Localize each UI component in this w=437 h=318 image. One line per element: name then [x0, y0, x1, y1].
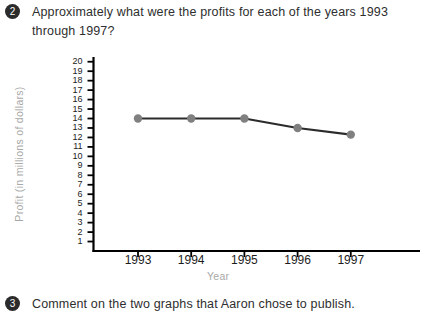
- y-axis-tick-label: 7: [67, 180, 83, 189]
- y-axis-tick-label: 15: [67, 105, 83, 114]
- y-axis-tick-label: 16: [67, 95, 83, 104]
- question-number-badge-3: 3: [5, 296, 20, 311]
- y-axis-tick-label: 2: [67, 228, 83, 237]
- question-item-2: 2 Approximately what were the profits fo…: [0, 3, 437, 41]
- data-point-marker: [187, 114, 195, 122]
- question-text-3: Comment on the two graphs that Aaron cho…: [32, 295, 355, 314]
- question-number-badge-2: 2: [5, 4, 20, 19]
- question-text-2: Approximately what were the profits for …: [32, 3, 432, 41]
- y-axis-tick-label: 6: [67, 190, 83, 199]
- y-axis-tick-label: 9: [67, 161, 83, 170]
- y-axis-tick-label: 3: [67, 218, 83, 227]
- data-point-marker: [347, 130, 355, 138]
- x-axis-tick-label: 1994: [168, 254, 214, 266]
- profit-line-chart: Profit (in millions of dollars) Year 123…: [0, 52, 437, 292]
- y-axis-tick-label: 17: [67, 86, 83, 95]
- y-axis-tick-label: 4: [67, 209, 83, 218]
- x-axis-tick-label: 1993: [115, 254, 161, 266]
- data-point-marker: [134, 114, 142, 122]
- y-axis-tick-label: 14: [67, 114, 83, 123]
- y-axis-tick-label: 20: [67, 57, 83, 66]
- x-axis-tick-label: 1995: [221, 254, 267, 266]
- x-axis-tick-label: 1996: [275, 254, 321, 266]
- y-axis-tick-label: 5: [67, 199, 83, 208]
- y-axis-tick-label: 19: [67, 67, 83, 76]
- y-axis-tick-label: 13: [67, 123, 83, 132]
- y-axis-tick-label: 1: [67, 237, 83, 246]
- y-axis-tick-label: 8: [67, 171, 83, 180]
- question-item-3: 3 Comment on the two graphs that Aaron c…: [0, 295, 437, 314]
- y-axis-tick-label: 12: [67, 133, 83, 142]
- y-axis-tick-label: 11: [67, 142, 83, 151]
- data-point-marker: [293, 124, 301, 132]
- y-axis-tick-label: 18: [67, 76, 83, 85]
- data-point-marker: [240, 114, 248, 122]
- x-axis-tick-label: 1997: [328, 254, 374, 266]
- y-axis-tick-label: 10: [67, 152, 83, 161]
